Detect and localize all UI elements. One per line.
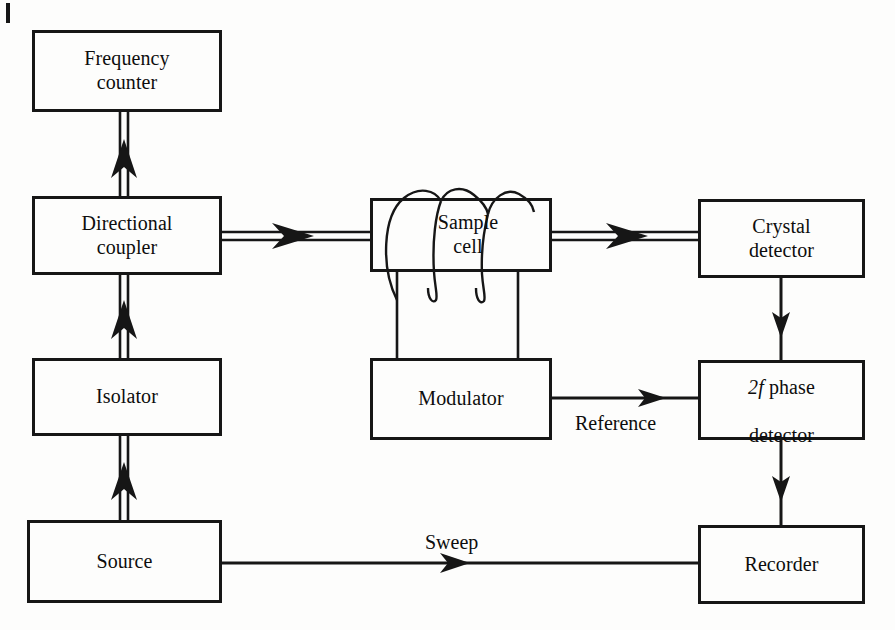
- block-modulator[interactable]: Modulator: [370, 358, 552, 440]
- block-label-phase-detector: 2f phase detector: [742, 353, 821, 447]
- wire-source-to-isolator: [111, 436, 137, 520]
- block-label-source: Source: [90, 550, 158, 574]
- block-directional-coupler[interactable]: Directional coupler: [32, 196, 222, 275]
- wire-phase-detector-to-recorder: [772, 440, 790, 525]
- block-recorder[interactable]: Recorder: [698, 525, 865, 604]
- block-crystal-detector[interactable]: Crystal detector: [698, 199, 865, 278]
- wire-crystal-detector-to-phase-detector: [772, 278, 790, 360]
- diagram-canvas: Frequency counter Directional coupler Sa…: [0, 0, 895, 630]
- block-sample-cell[interactable]: Sample cell: [370, 198, 552, 272]
- block-phase-detector[interactable]: 2f phase detector: [698, 360, 865, 440]
- block-label-isolator: Isolator: [90, 385, 164, 409]
- phase-detector-line2: detector: [749, 424, 814, 446]
- block-isolator[interactable]: Isolator: [32, 358, 222, 436]
- block-label-directional-coupler: Directional coupler: [75, 212, 178, 259]
- wire-source-to-recorder: [222, 553, 698, 573]
- block-source[interactable]: Source: [27, 520, 222, 603]
- edge-label-sweep: Sweep: [425, 531, 478, 554]
- wire-sample-cell-to-crystal-detector: [552, 223, 698, 249]
- wire-modulator-to-phase-detector: [552, 389, 698, 407]
- edge-label-reference: Reference: [575, 412, 656, 435]
- block-label-recorder: Recorder: [738, 553, 824, 577]
- block-frequency-counter[interactable]: Frequency counter: [32, 30, 222, 112]
- phase-detector-harmonic-symbol: 2f: [748, 376, 764, 398]
- wire-directional-coupler-to-sample-cell: [222, 223, 370, 249]
- page-corner-tick-mark: [6, 3, 10, 23]
- wire-isolator-to-directional-coupler: [111, 275, 137, 358]
- block-label-crystal-detector: Crystal detector: [743, 215, 820, 262]
- block-label-modulator: Modulator: [412, 387, 509, 411]
- block-label-sample-cell: Sample cell: [432, 211, 505, 258]
- block-label-frequency-counter: Frequency counter: [78, 47, 175, 94]
- phase-detector-line1-rest: phase: [764, 376, 815, 398]
- wire-directional-coupler-to-frequency-counter: [111, 112, 137, 196]
